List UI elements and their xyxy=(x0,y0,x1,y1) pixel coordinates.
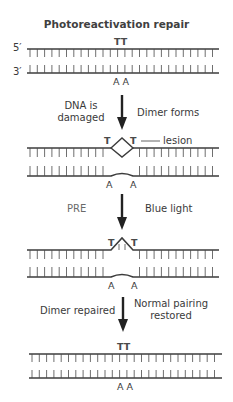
stage3-bottom-right-base: A xyxy=(131,280,138,291)
stage2-top-left-base: T xyxy=(104,135,110,146)
stage3-bottom-left-base: A xyxy=(108,280,115,291)
dna-pre-bound xyxy=(27,238,219,277)
step1-left-line1: DNA is xyxy=(56,100,106,112)
step1-left-label: DNA is damaged xyxy=(56,100,106,124)
stage1-bottom-bases: A A xyxy=(113,76,129,87)
step3-right-label: Normal pairing restored xyxy=(131,298,211,322)
step3-right-line1: Normal pairing xyxy=(131,298,211,310)
dna-normal xyxy=(27,49,219,73)
stage2-bottom-right-base: A xyxy=(130,179,137,190)
arrow-step-2 xyxy=(117,194,127,230)
stage2-top-right-base: T xyxy=(130,135,136,146)
stage3-top-left-base: T xyxy=(108,237,114,248)
step3-right-line2: restored xyxy=(131,310,211,322)
stage4-bottom-bases: A A xyxy=(117,381,133,392)
step3-left-label: Dimer repaired xyxy=(40,305,115,317)
dna-repaired xyxy=(29,354,222,378)
arrow-step-1 xyxy=(117,95,127,130)
stage1-top-bases: TT xyxy=(114,36,127,47)
step2-left-label: PRE xyxy=(67,203,86,215)
step2-right-label: Blue light xyxy=(145,203,192,215)
step1-right-label: Dimer forms xyxy=(137,107,199,119)
stage4-top-bases: TT xyxy=(117,341,130,352)
stage2-bottom-left-base: A xyxy=(106,179,113,190)
step1-left-line2: damaged xyxy=(56,112,106,124)
arrow-step-3 xyxy=(118,297,128,332)
lesion-label: lesion xyxy=(163,135,192,147)
stage3-top-right-base: T xyxy=(131,237,137,248)
